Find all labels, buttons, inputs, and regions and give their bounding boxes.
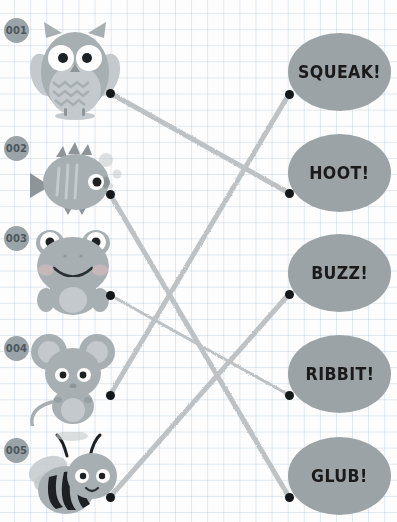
speech-bubble-text: BUZZ! [311,263,368,283]
connector-mouse-squeak[interactable] [110,94,289,395]
speech-bubble-squeak[interactable]: SQUEAK! [288,33,391,111]
connector-dot-fish[interactable] [106,190,115,199]
animal-fish [22,140,132,218]
connector-dot-bee[interactable] [106,493,115,502]
animal-mouse [22,330,126,426]
speech-bubble-ribbit[interactable]: RIBBIT! [288,335,391,413]
connector-dot-hoot[interactable] [285,189,294,198]
speech-bubble-text: GLUB! [311,466,367,486]
worksheet-page: 001 SQUEAK! 002 [0,0,397,522]
animal-owl [22,20,126,120]
connector-dot-mouse[interactable] [106,391,115,400]
animal-frog [22,224,126,316]
connector-dot-frog[interactable] [106,291,115,300]
speech-bubble-hoot[interactable]: HOOT! [288,134,391,212]
connector-dot-glub[interactable] [285,493,294,502]
connector-frog-ribbit[interactable] [110,295,289,395]
connector-dot-buzz[interactable] [285,290,294,299]
speech-bubble-text: RIBBIT! [305,364,374,384]
connector-dot-owl[interactable] [106,89,115,98]
speech-bubble-glub[interactable]: GLUB! [288,437,391,515]
connector-owl-hoot[interactable] [110,93,289,193]
connector-fish-glub[interactable] [110,194,289,497]
connector-dot-squeak[interactable] [285,90,294,99]
connector-dot-ribbit[interactable] [285,391,294,400]
animal-bee [22,432,126,522]
speech-bubble-text: SQUEAK! [298,62,381,82]
connector-bee-buzz[interactable] [110,294,289,497]
speech-bubble-text: HOOT! [310,163,370,183]
speech-bubble-buzz[interactable]: BUZZ! [288,234,391,312]
